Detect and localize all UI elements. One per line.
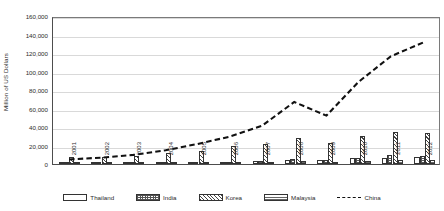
y-axis-tick-label: 20,000 bbox=[29, 143, 48, 150]
legend-label-korea: Korea bbox=[226, 194, 243, 201]
x-axis-tick-label-2008: 2008 bbox=[298, 142, 306, 168]
legend-swatch-thailand-icon bbox=[63, 194, 87, 201]
legend-item-thailand[interactable]: Thailand bbox=[63, 194, 114, 201]
x-axis-tick-label-2004: 2004 bbox=[168, 142, 176, 168]
legend-swatch-india-icon bbox=[136, 194, 160, 201]
y-axis-tick-label: 80,000 bbox=[29, 87, 48, 94]
y-axis-tick-label: 120,000 bbox=[26, 50, 48, 57]
legend-item-korea[interactable]: Korea bbox=[199, 194, 243, 201]
x-axis-tick-label-2010: 2010 bbox=[362, 142, 370, 168]
x-axis-tick-label-2001: 2001 bbox=[71, 142, 79, 168]
y-axis-tick-label: 140,000 bbox=[26, 32, 48, 39]
y-axis-tick-label: 100,000 bbox=[26, 69, 48, 76]
chart-legend: ThailandIndiaKoreaMalaysiaChina bbox=[0, 190, 444, 204]
legend-item-india[interactable]: India bbox=[136, 194, 176, 201]
legend-label-india: India bbox=[163, 194, 176, 201]
legend-label-thailand: Thailand bbox=[90, 194, 114, 201]
x-axis-tick-label-2005: 2005 bbox=[201, 142, 209, 168]
legend-label-china: China bbox=[364, 194, 380, 201]
legend-label-malaysia: Malaysia bbox=[291, 194, 315, 201]
y-axis-tick-label: 60,000 bbox=[29, 106, 48, 113]
x-axis-tick-label-2009: 2009 bbox=[330, 142, 338, 168]
x-axis-tick-label-2011: 2011 bbox=[395, 142, 403, 168]
x-axis-tick-label-2002: 2002 bbox=[104, 142, 112, 168]
x-axis-tick-label-2007: 2007 bbox=[265, 142, 273, 168]
x-axis-tick-label-2003: 2003 bbox=[136, 142, 144, 168]
x-axis-tick-label-2012: 2012 bbox=[427, 142, 435, 168]
y-axis-tick-label: 0 bbox=[45, 161, 48, 168]
y-axis-tick-labels: 160,000140,000120,000100,00080,00060,000… bbox=[0, 0, 52, 211]
legend-swatch-korea-icon bbox=[199, 194, 223, 201]
legend-item-china[interactable]: China bbox=[337, 194, 380, 201]
x-axis-tick-label-2006: 2006 bbox=[233, 142, 241, 168]
chart-container: Million of US Dollars 160,000140,000120,… bbox=[0, 0, 444, 211]
x-axis-tick-labels: 2001200220032004200520062007200820092010… bbox=[52, 166, 440, 192]
legend-swatch-china-icon bbox=[337, 194, 361, 201]
legend-swatch-malaysia-icon bbox=[264, 194, 288, 201]
y-axis-tick-label: 160,000 bbox=[26, 13, 48, 20]
legend-item-malaysia[interactable]: Malaysia bbox=[264, 194, 315, 201]
y-axis-tick-label: 40,000 bbox=[29, 124, 48, 131]
